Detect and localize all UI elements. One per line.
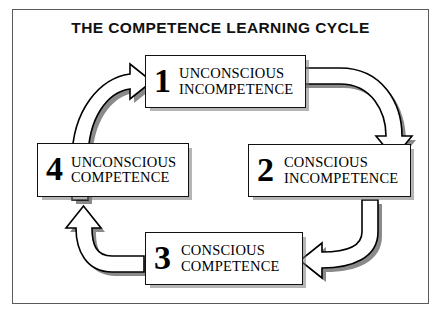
node-3-conscious-competence[interactable]: 3 CONSCIOUS COMPETENCE — [145, 232, 303, 285]
node-2-label-line2: INCOMPETENCE — [284, 171, 398, 186]
node-1-label-line1: UNCONSCIOUS — [179, 66, 293, 81]
node-1-label-line2: INCOMPETENCE — [179, 82, 293, 97]
node-2-label: CONSCIOUS INCOMPETENCE — [284, 155, 398, 185]
node-4-number: 4 — [46, 152, 63, 186]
diagram-canvas: THE COMPETENCE LEARNING CYCLE — [0, 0, 441, 316]
arrow-2-to-3 — [300, 200, 378, 278]
node-3-label-line2: COMPETENCE — [181, 259, 280, 274]
node-3-label: CONSCIOUS COMPETENCE — [181, 243, 280, 273]
node-2-conscious-incompetence[interactable]: 2 CONSCIOUS INCOMPETENCE — [248, 144, 411, 197]
node-2-number: 2 — [257, 153, 274, 187]
node-4-label-line1: UNCONSCIOUS — [71, 155, 176, 170]
node-3-label-line1: CONSCIOUS — [181, 243, 280, 258]
node-1-label: UNCONSCIOUS INCOMPETENCE — [179, 66, 293, 96]
arrow-3-to-4 — [66, 206, 144, 272]
node-1-number: 1 — [154, 64, 171, 98]
node-2-label-line1: CONSCIOUS — [284, 155, 398, 170]
node-1-unconscious-incompetence[interactable]: 1 UNCONSCIOUS INCOMPETENCE — [145, 55, 306, 108]
node-4-label: UNCONSCIOUS COMPETENCE — [71, 155, 176, 185]
node-4-unconscious-competence[interactable]: 4 UNCONSCIOUS COMPETENCE — [37, 143, 189, 197]
node-4-label-line2: COMPETENCE — [71, 170, 176, 185]
node-3-number: 3 — [154, 241, 171, 275]
